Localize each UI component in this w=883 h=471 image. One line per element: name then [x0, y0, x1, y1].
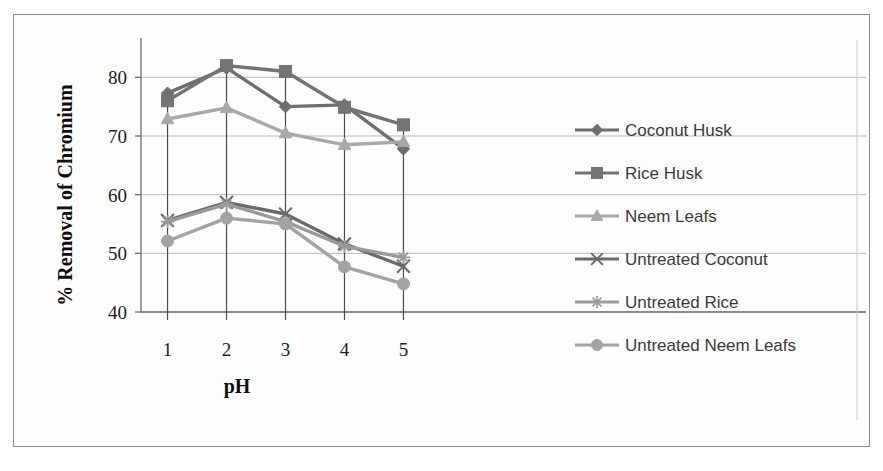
square-marker: [280, 65, 292, 77]
legend-label: Coconut Husk: [625, 121, 732, 140]
legend: Coconut HuskRice HuskNeem LeafsUntreated…: [575, 40, 857, 420]
x-tick-label-5: 5: [399, 339, 409, 360]
y-tick-label-60: 60: [108, 185, 127, 206]
x-tick-label-4: 4: [340, 339, 350, 360]
triangle-marker: [220, 101, 233, 112]
y-tick-label-70: 70: [108, 126, 127, 147]
gridlines: [141, 77, 866, 312]
x-axis-title: pH: [224, 375, 251, 398]
x-tick-label-3: 3: [281, 339, 291, 360]
legend-label: Untreated Coconut: [625, 250, 768, 269]
square-marker: [162, 95, 174, 107]
y-tick-label-50: 50: [108, 243, 127, 264]
circle-marker: [397, 278, 409, 290]
legend-label: Neem Leafs: [625, 207, 717, 226]
legend-item-coconut-husk[interactable]: Coconut Husk: [575, 121, 732, 140]
circle-marker: [338, 261, 350, 273]
legend-item-neem-leafs[interactable]: Neem Leafs: [575, 207, 717, 226]
y-tick-label-80: 80: [108, 67, 127, 88]
chart-svg: 4050607080 12345 Coconut HuskRice HuskNe…: [0, 0, 883, 471]
square-marker: [591, 167, 602, 178]
legend-label: Rice Husk: [625, 164, 703, 183]
x-tick-label-2: 2: [222, 339, 232, 360]
square-marker: [221, 60, 233, 72]
x-tick-label-1: 1: [163, 339, 173, 360]
legend-label: Untreated Neem Leafs: [625, 336, 796, 355]
legend-label: Untreated Rice: [625, 293, 738, 312]
circle-marker: [162, 235, 174, 247]
legend-item-untreated-neem-leafs[interactable]: Untreated Neem Leafs: [575, 336, 796, 355]
square-marker: [338, 101, 350, 113]
chart-container: 4050607080 12345 Coconut HuskRice HuskNe…: [0, 0, 883, 471]
square-marker: [397, 119, 409, 131]
x-axis-tick-labels: 12345: [163, 339, 408, 360]
circle-marker: [280, 218, 292, 230]
y-axis-tick-labels: 4050607080: [108, 67, 127, 323]
circle-marker: [591, 339, 602, 350]
diamond-marker: [591, 124, 602, 135]
legend-item-untreated-rice[interactable]: Untreated Rice: [575, 293, 738, 312]
y-axis-title: % Removal of Chromium: [54, 84, 76, 306]
legend-item-rice-husk[interactable]: Rice Husk: [575, 164, 703, 183]
y-tick-label-40: 40: [108, 302, 127, 323]
circle-marker: [221, 212, 233, 224]
